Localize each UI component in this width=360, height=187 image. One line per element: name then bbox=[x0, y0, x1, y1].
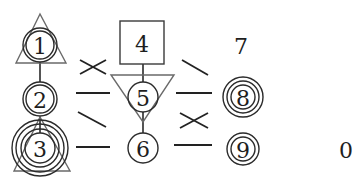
connector-slash-1 bbox=[78, 112, 106, 127]
isolated-label-0: 0 bbox=[339, 138, 353, 163]
diagram-canvas: 1 2 3 4 5 6 7 8 bbox=[0, 0, 360, 187]
node-label: 3 bbox=[33, 137, 47, 162]
connector-cross-2 bbox=[180, 113, 208, 128]
connector-cross-1 bbox=[80, 60, 106, 74]
node-1[interactable]: 1 bbox=[16, 14, 66, 63]
connector-slash-2 bbox=[182, 60, 208, 75]
node-7[interactable]: 7 bbox=[234, 34, 248, 59]
node-label: 1 bbox=[33, 34, 47, 59]
node-3[interactable]: 3 bbox=[12, 117, 70, 176]
node-4[interactable]: 4 bbox=[120, 21, 164, 64]
node-label: 8 bbox=[236, 86, 250, 111]
node-2[interactable]: 2 bbox=[23, 82, 57, 116]
node-label: 6 bbox=[136, 137, 150, 162]
node-label: 2 bbox=[33, 88, 47, 113]
node-9[interactable]: 9 bbox=[227, 133, 259, 165]
node-6[interactable]: 6 bbox=[128, 133, 158, 163]
node-label: 7 bbox=[234, 34, 248, 59]
node-label: 5 bbox=[136, 86, 150, 111]
node-label: 9 bbox=[236, 138, 250, 163]
node-label: 4 bbox=[135, 32, 149, 57]
node-8[interactable]: 8 bbox=[223, 77, 263, 117]
